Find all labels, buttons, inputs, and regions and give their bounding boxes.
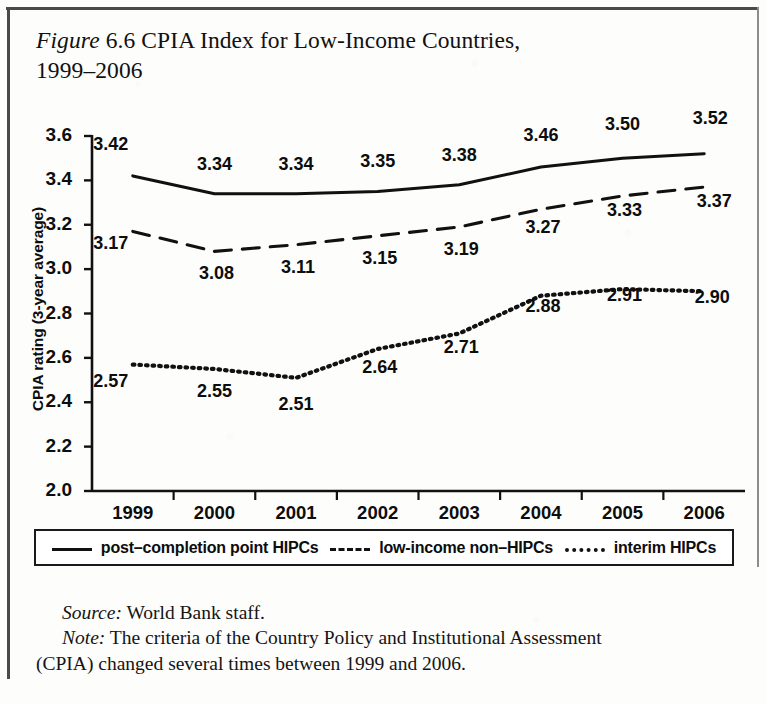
data-point-label: 3.38 [430,145,488,166]
legend-item-2[interactable]: interim HIPCs [565,539,716,557]
chart-legend: post–completion point HIPCslow-income no… [34,529,734,566]
data-point-label: 3.35 [349,151,407,172]
data-point-label: 2.57 [82,371,140,392]
legend-dotted-line-icon [565,543,605,553]
data-point-label: 3.46 [512,125,570,146]
data-point-label: 3.50 [594,114,652,135]
data-point-label: 3.15 [351,248,409,269]
data-point-label: 3.34 [267,154,325,175]
data-point-label: 2.55 [185,381,243,402]
data-point-label: 2.90 [683,287,741,308]
y-tick-label: 3.0 [26,257,72,279]
data-point-label: 2.64 [351,357,409,378]
y-tick-label: 3.2 [26,213,72,235]
x-tick-label: 2004 [502,502,580,524]
legend-solid-line-icon [52,543,92,553]
note-line: Note: The criteria of the Country Policy… [62,625,726,650]
data-point-label: 2.91 [596,285,654,306]
legend-label: low-income non–HIPCs [379,539,553,557]
x-tick-label: 2000 [175,502,253,524]
y-tick-label: 2.4 [26,390,72,412]
x-tick-label: 1999 [94,502,172,524]
legend-item-1[interactable]: low-income non–HIPCs [330,539,553,557]
source-line: Source: World Bank staff. [62,600,726,625]
data-point-label: 2.71 [432,337,490,358]
source-label: Source: [62,602,122,623]
data-point-label: 3.17 [82,233,140,254]
data-point-label: 3.19 [432,239,490,260]
y-tick-label: 3.6 [26,124,72,146]
note-label: Note: [62,627,105,648]
x-tick-label: 2002 [339,502,417,524]
y-tick-label: 2.2 [26,435,72,457]
cpia-line-chart: CPIA rating (3-year average) 3.63.43.23.… [0,0,766,704]
data-point-label: 3.33 [596,200,654,221]
data-point-label: 3.08 [187,263,245,284]
x-tick-label: 2001 [257,502,335,524]
plot-canvas [0,0,766,704]
data-point-label: 2.51 [267,394,325,415]
legend-label: interim HIPCs [614,539,716,557]
x-tick-label: 2006 [665,502,743,524]
figure-footnotes: Source: World Bank staff. Note: The crit… [36,600,726,676]
data-point-label: 3.42 [82,134,140,155]
x-tick-label: 2003 [420,502,498,524]
data-point-label: 3.11 [269,257,327,278]
y-tick-label: 2.6 [26,346,72,368]
y-tick-label: 2.0 [26,479,72,501]
legend-label: post–completion point HIPCs [101,539,319,557]
data-point-label: 3.37 [685,191,743,212]
data-point-label: 3.27 [514,217,572,238]
y-tick-label: 3.4 [26,168,72,190]
data-point-label: 2.88 [514,296,572,317]
data-point-label: 3.34 [185,154,243,175]
note-line-continued: (CPIA) changed several times between 199… [36,651,726,676]
data-point-label: 3.52 [681,108,739,129]
y-tick-label: 2.8 [26,302,72,324]
source-text: World Bank staff. [126,602,264,623]
figure-page: Figure 6.6 CPIA Index for Low-Income Cou… [0,0,766,704]
x-tick-label: 2005 [584,502,662,524]
note-text: The criteria of the Country Policy and I… [110,627,602,648]
legend-item-0[interactable]: post–completion point HIPCs [52,539,319,557]
legend-dashed-line-icon [330,543,370,553]
